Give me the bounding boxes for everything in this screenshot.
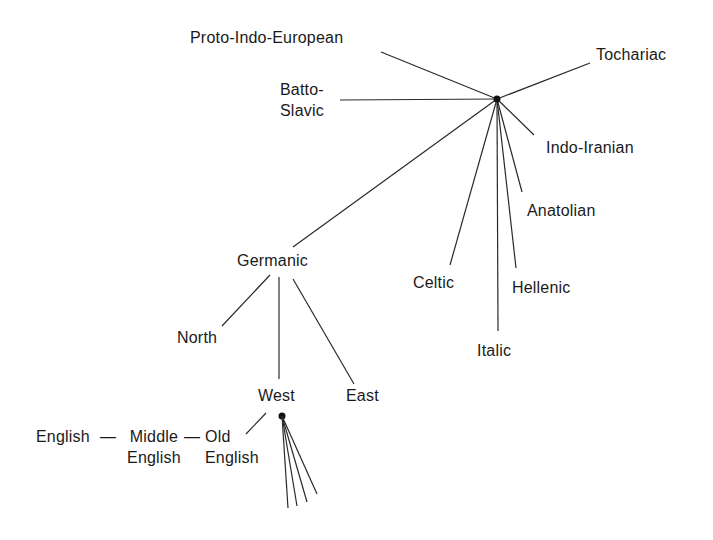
label-celtic: Celtic bbox=[413, 272, 454, 293]
edge-north bbox=[222, 275, 270, 326]
label-balto-slavic: Batto- Slavic bbox=[280, 79, 338, 121]
edge-celtic bbox=[450, 99, 497, 265]
label-middle-english: Middle English bbox=[122, 426, 186, 468]
label-dash-2: — bbox=[184, 426, 200, 447]
tree-diagram bbox=[0, 0, 713, 540]
label-dash-1: — bbox=[100, 426, 116, 447]
label-balto-line2: Slavic bbox=[280, 100, 338, 121]
edge-pie-label bbox=[381, 52, 497, 99]
edge-hellenic bbox=[497, 99, 516, 268]
label-italic: Italic bbox=[477, 340, 511, 361]
label-balto-line1: Batto- bbox=[280, 79, 338, 100]
label-old-english: Old English bbox=[205, 426, 271, 468]
label-old-line1: Old bbox=[205, 426, 271, 447]
edge-italic bbox=[497, 99, 498, 331]
label-east: East bbox=[346, 385, 379, 406]
edge-east bbox=[293, 279, 354, 384]
label-hellenic: Hellenic bbox=[512, 277, 571, 298]
label-indo-iranian: Indo-Iranian bbox=[546, 137, 634, 158]
label-proto-indo-european: Proto-Indo-European bbox=[190, 27, 343, 48]
edge-germanic bbox=[293, 99, 497, 247]
edge-tocharian bbox=[497, 63, 590, 99]
label-middle-line2: English bbox=[122, 447, 186, 468]
label-germanic: Germanic bbox=[237, 250, 308, 271]
label-old-line2: English bbox=[205, 447, 271, 468]
label-tochariac: Tochariac bbox=[596, 44, 666, 65]
edge-indo-iranian bbox=[497, 99, 534, 135]
edge-west-fan-4 bbox=[282, 416, 317, 494]
label-anatolian: Anatolian bbox=[527, 200, 596, 221]
label-north: North bbox=[177, 327, 217, 348]
label-middle-line1: Middle bbox=[122, 426, 186, 447]
edge-anatolian bbox=[497, 99, 522, 192]
label-english: English bbox=[36, 426, 90, 447]
edge-balto-slavic bbox=[340, 99, 497, 100]
edge-west-fan-1 bbox=[282, 416, 288, 508]
pie-node bbox=[494, 96, 501, 103]
label-west: West bbox=[258, 385, 295, 406]
